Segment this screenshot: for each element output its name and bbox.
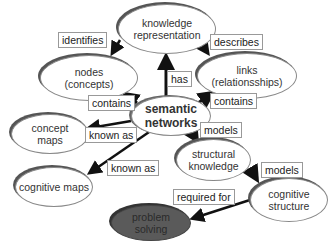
edge-label-models-cognitive: models [261,162,303,178]
node-label: links (relationsships) [211,64,282,88]
node-concept-maps: concept maps [11,114,89,154]
edge-label-models-structural: models [200,122,242,138]
node-cognitive-structure: cognitive structure [250,178,328,222]
node-label: concept maps [32,122,69,146]
arrow-models-cognitive [250,168,256,178]
edge-label-identifies: identifies [58,32,107,48]
edge-label-required-for: required for [173,189,235,205]
node-semantic-networks: semantic networks [131,96,211,136]
node-problem-solving: problem solving [111,205,191,241]
node-label: nodes (concepts) [64,66,113,90]
node-structural-knowledge: structural knowledge [176,139,251,181]
edge-label-known-as-cognitive: known as [107,160,159,176]
node-label: problem solving [132,211,170,235]
node-label: knowledge representation [133,17,200,41]
node-label: cognitive maps [19,181,89,193]
arrow-identifies [113,40,120,52]
node-knowledge-representation: knowledge representation [118,4,216,54]
edge-label-contains-nodes: contains [88,95,135,111]
edge-label-contains-links: contains [210,93,257,109]
node-label: structural knowledge [188,148,238,172]
edge-label-has: has [167,71,192,87]
node-cognitive-maps: cognitive maps [15,167,93,207]
edge-label-describes: describes [210,34,263,50]
node-label: cognitive structure [268,188,309,212]
edge-label-known-as-concept: known as [85,127,137,143]
node-label: semantic networks [145,102,198,130]
